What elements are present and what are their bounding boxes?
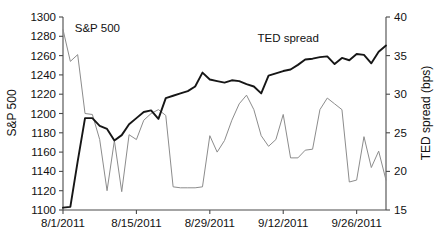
dual-axis-line-chart: 1100112011401160118012001220124012601280… — [0, 0, 443, 247]
right-axis-tick-label: 40 — [394, 11, 407, 23]
left-axis-tick-label: 1260 — [30, 50, 56, 62]
right-axis-title: TED spread (bps) — [419, 66, 433, 161]
x-axis-tick-label: 9/12/2011 — [258, 217, 308, 229]
x-axis-tick-label: 8/1/2011 — [41, 217, 85, 229]
x-axis-tick-label: 8/15/2011 — [111, 217, 161, 229]
left-axis-tick-label: 1120 — [31, 185, 56, 197]
right-axis-tick-label: 25 — [394, 127, 407, 139]
left-axis-tick-label: 1160 — [31, 146, 56, 158]
left-axis-tick-label: 1200 — [30, 108, 56, 120]
right-axis-tick-label: 30 — [394, 88, 407, 100]
series-annotation-s-p-500: S&P 500 — [75, 22, 120, 34]
left-axis-tick-label: 1280 — [30, 30, 56, 42]
left-axis-tick-label: 1140 — [31, 165, 56, 177]
x-axis-tick-label: 9/26/2011 — [331, 217, 381, 229]
chart-container: 1100112011401160118012001220124012601280… — [0, 0, 443, 247]
left-axis-tick-label: 1180 — [31, 127, 56, 139]
left-axis-tick-label: 1220 — [30, 88, 56, 100]
series-annotation-ted-spread: TED spread — [258, 32, 319, 44]
left-axis-tick-label: 1240 — [30, 69, 56, 81]
right-axis-tick-label: 35 — [394, 50, 407, 62]
left-axis-tick-label: 1100 — [31, 204, 56, 216]
left-axis-tick-label: 1300 — [30, 11, 56, 23]
left-axis-title: S&P 500 — [5, 89, 19, 136]
right-axis-tick-label: 15 — [394, 204, 407, 216]
x-axis-tick-label: 8/29/2011 — [185, 217, 235, 229]
right-axis-tick-label: 20 — [394, 165, 407, 177]
